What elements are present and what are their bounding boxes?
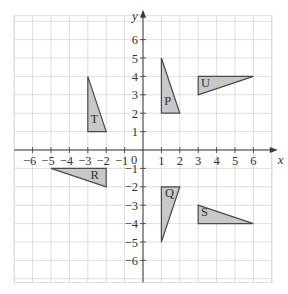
x-tick-label: 1 xyxy=(158,154,164,168)
triangle-label-p: P xyxy=(164,94,171,108)
x-tick-label: 2 xyxy=(177,154,183,168)
y-tick-label: 1 xyxy=(132,125,138,139)
y-tick-label: −5 xyxy=(125,236,138,250)
y-tick-label: −4 xyxy=(125,217,139,231)
y-tick-label: 2 xyxy=(132,107,138,121)
x-tick-label: −4 xyxy=(60,154,74,168)
x-tick-label: 4 xyxy=(213,154,220,168)
x-tick-label: −6 xyxy=(23,154,36,168)
x-axis-arrow-icon xyxy=(270,147,278,153)
y-tick-label: 5 xyxy=(132,52,138,66)
x-tick-label: −5 xyxy=(41,154,54,168)
origin-label: 0 xyxy=(131,153,137,167)
y-tick-label: −3 xyxy=(125,199,138,213)
y-tick-label: −6 xyxy=(125,254,138,268)
x-tick-label: 5 xyxy=(232,154,238,168)
x-axis-label: x xyxy=(277,152,284,167)
y-axis-arrow-icon xyxy=(140,10,146,18)
triangle-label-u: U xyxy=(201,76,210,90)
triangle-label-t: T xyxy=(91,112,99,126)
x-tick-label: 6 xyxy=(250,154,256,168)
x-tick-label: 3 xyxy=(195,154,201,168)
x-tick-label: −2 xyxy=(97,154,110,168)
x-tick-label: −3 xyxy=(78,154,91,168)
axes xyxy=(14,10,278,283)
y-tick-label: −2 xyxy=(125,180,138,194)
triangle-label-q: Q xyxy=(165,186,174,200)
y-tick-label: 4 xyxy=(132,70,139,84)
triangle-label-s: S xyxy=(201,205,208,219)
triangle-label-r: R xyxy=(91,168,100,182)
coordinate-grid-diagram: TPURQS −6−5−4−3−2−1123456−6−5−4−3−2−1123… xyxy=(0,0,288,294)
y-tick-label: 3 xyxy=(132,88,138,102)
tick-labels: −6−5−4−3−2−1123456−6−5−4−3−2−11234560xy xyxy=(23,8,284,268)
y-tick-label: 6 xyxy=(132,33,138,47)
y-axis-label: y xyxy=(130,8,138,23)
